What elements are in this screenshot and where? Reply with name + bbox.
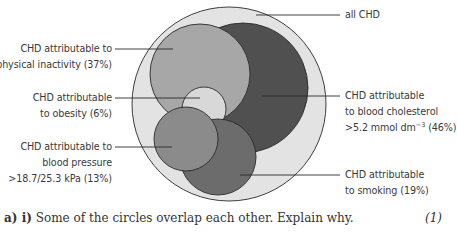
label-line: blood pressure (8, 155, 112, 171)
question-part-number: a) i) (4, 211, 32, 225)
label-line: CHD attributable to (0, 41, 112, 57)
circle-group (132, 7, 326, 201)
question-marks: (1) (425, 211, 442, 225)
label-line: to blood cholesterol (345, 104, 457, 120)
label-all-chd: all CHD (345, 7, 380, 23)
label-smoking: CHD attributable to smoking (19%) (345, 167, 429, 199)
question: a) i) Some of the circles overlap each o… (4, 211, 448, 233)
label-blood-pressure: CHD attributable to blood pressure >18.7… (8, 139, 112, 187)
label-line: physical inactivity (37%) (0, 57, 112, 73)
label-line: to obesity (6%) (33, 106, 112, 122)
circle-blood-pressure (154, 107, 218, 171)
label-physical-inactivity: CHD attributable to physical inactivity … (0, 41, 112, 73)
label-line: CHD attributable (33, 90, 112, 106)
question-text: Some of the circles overlap each other. … (36, 211, 354, 225)
label-line: >18.7/25.3 kPa (13%) (8, 171, 112, 187)
label-line: CHD attributable to (8, 139, 112, 155)
label-line: >5.2 mmol dm−3 (46%) (345, 120, 457, 136)
label-line: CHD attributable (345, 88, 457, 104)
label-line: to smoking (19%) (345, 183, 429, 199)
label-cholesterol: CHD attributable to blood cholesterol >5… (345, 88, 457, 136)
label-line: CHD attributable (345, 167, 429, 183)
label-obesity: CHD attributable to obesity (6%) (33, 90, 112, 122)
